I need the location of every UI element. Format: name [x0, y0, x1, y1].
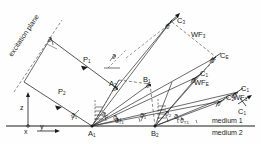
axis-z-label: z	[20, 104, 24, 111]
point-a1-label: A1	[88, 130, 96, 139]
axis-x-label: x	[24, 128, 28, 135]
angle-a1-T1-label: ϑT1	[115, 117, 124, 125]
angle-b2-1-label: ϑ1	[140, 112, 146, 120]
node-b2	[154, 125, 157, 128]
angle-a1-1-label: ϑ1	[71, 112, 77, 120]
angle-c1b-label: ϑ	[233, 93, 237, 100]
wavefront-wfe-label: WFE	[194, 79, 209, 88]
angle-b2-2-label: ϑ2	[165, 110, 171, 118]
angle-a2-label: ϑ	[113, 86, 117, 93]
ray-c3-label: C3	[177, 17, 185, 26]
medium1-label: medium 1	[212, 117, 243, 124]
angle-c3-label: ϑ	[166, 24, 170, 31]
ray-a1-to-c2	[92, 101, 222, 126]
node-a1	[91, 125, 94, 128]
angle-b1-label: ϑ	[146, 83, 150, 90]
ray-ce-label: CE	[220, 52, 229, 61]
angle-c1-label: ϑ	[192, 78, 196, 85]
angle-a1-2-label: ϑ2	[102, 111, 108, 119]
top-angle-normal	[108, 50, 126, 68]
point-b2-label: B2	[151, 130, 159, 139]
beam-width-connector	[24, 39, 50, 82]
excitation-plane-normal	[47, 44, 57, 49]
wavefront-wf3-label: WF3	[191, 31, 205, 40]
medium2-label: medium 2	[212, 129, 243, 136]
angle-excitation-label: ϑ	[48, 36, 52, 43]
axis-y-arrow	[55, 129, 60, 133]
beam-p1-label: P1	[83, 56, 91, 65]
angle-arc-b2-T1	[196, 120, 197, 123]
ray-b2-up-steep	[155, 82, 172, 126]
beam-p2-label: P2	[58, 88, 66, 97]
angle-ce-label: ϑ	[211, 58, 215, 65]
figure-canvas: excitation plane medium 1 medium 2 z x y…	[0, 0, 261, 144]
axis-z-arrow	[26, 92, 30, 97]
angle-c2-label: ϑ	[217, 101, 221, 108]
angle-top-label: ϑ	[112, 53, 116, 60]
ray-c1-far-label: C1	[238, 108, 246, 117]
axis-y-label: y	[40, 123, 44, 130]
angle-b2-T1-label: ϑT1	[180, 117, 189, 125]
wavefront-b1-drop	[150, 84, 155, 126]
far-c1-arrowhead	[247, 95, 252, 100]
